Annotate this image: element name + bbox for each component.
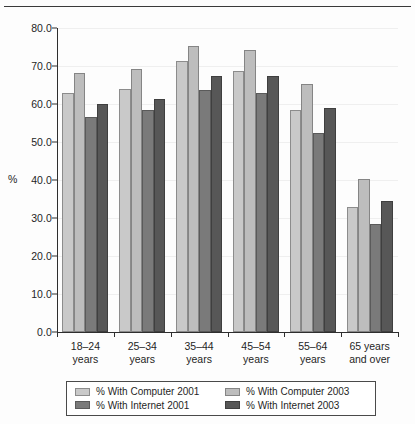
y-tick-label: 50.0 [31, 136, 52, 148]
bar-group [284, 28, 341, 332]
y-tick-label: 60.0 [31, 98, 52, 110]
x-tick-mark [341, 332, 342, 337]
legend-label: % With Computer 2003 [246, 386, 349, 397]
plot-area [57, 28, 398, 332]
bar [211, 76, 223, 332]
x-category-label-line: years [171, 353, 228, 366]
bar [131, 69, 143, 332]
bar [188, 46, 200, 332]
bar [256, 93, 268, 332]
x-tick-mark [284, 332, 285, 337]
x-category-label: 45–54years [228, 340, 285, 366]
x-category-label-line: 25–34 [114, 340, 171, 353]
bar [176, 61, 188, 332]
y-tick-label: 10.0 [31, 288, 52, 300]
x-category-label-line: years [57, 353, 114, 366]
x-category-label-line: and over [341, 353, 398, 366]
x-category-label-line: 45–54 [228, 340, 285, 353]
legend-item: % With Computer 2001 [75, 386, 225, 397]
x-tick-mark [228, 332, 229, 337]
x-tick-mark [171, 332, 172, 337]
x-category-label-line: 55–64 [284, 340, 341, 353]
bar [142, 110, 154, 332]
legend-label: % With Computer 2001 [96, 386, 199, 397]
y-tick-label: 30.0 [31, 212, 52, 224]
legend-swatch [75, 401, 90, 409]
legend-label: % With Internet 2001 [96, 400, 189, 411]
x-category-label: 65 yearsand over [341, 340, 398, 366]
bar [381, 201, 393, 332]
bar [358, 179, 370, 332]
x-tick-mark [398, 332, 399, 337]
top-divider-rule [4, 6, 411, 7]
y-tick-label: 0.0 [37, 326, 52, 338]
bar [347, 207, 359, 332]
bar [199, 90, 211, 332]
legend-swatch [75, 388, 90, 396]
bar [301, 84, 313, 332]
y-tick-label: 20.0 [31, 250, 52, 262]
x-category-label: 55–64years [284, 340, 341, 366]
legend-swatch [225, 401, 240, 409]
y-axis-ticks: 0.010.020.030.040.050.060.070.080.0 [0, 0, 52, 424]
chart-legend: % With Computer 2001% With Computer 2003… [66, 381, 376, 416]
bar [290, 110, 302, 332]
x-tick-mark [57, 332, 58, 337]
x-category-label-line: years [114, 353, 171, 366]
y-tick-label: 70.0 [31, 60, 52, 72]
bar [233, 71, 245, 332]
bar-group [228, 28, 285, 332]
bar-group [171, 28, 228, 332]
bar [119, 89, 131, 332]
x-category-label: 25–34years [114, 340, 171, 366]
legend-label: % With Internet 2003 [246, 400, 339, 411]
x-category-label-line: 35–44 [171, 340, 228, 353]
x-category-label-line: 65 years [341, 340, 398, 353]
x-category-label-line: years [284, 353, 341, 366]
legend-item: % With Internet 2001 [75, 400, 225, 411]
bar [154, 99, 166, 332]
x-category-label-line: years [228, 353, 285, 366]
bar-group [114, 28, 171, 332]
bar [313, 133, 325, 332]
bar [85, 117, 97, 332]
x-category-label: 18–24years [57, 340, 114, 366]
bar [244, 50, 256, 332]
y-tick-label: 40.0 [31, 174, 52, 186]
x-category-label-line: 18–24 [57, 340, 114, 353]
bar [324, 108, 336, 332]
bar [267, 76, 279, 332]
bar [74, 73, 86, 332]
chart-figure: % 0.010.020.030.040.050.060.070.080.0 18… [0, 0, 415, 424]
legend-item: % With Internet 2003 [225, 400, 375, 411]
bar-group [57, 28, 114, 332]
legend-item: % With Computer 2003 [225, 386, 375, 397]
bar-group [341, 28, 398, 332]
x-category-label: 35–44years [171, 340, 228, 366]
bar [370, 224, 382, 332]
x-tick-mark [114, 332, 115, 337]
y-tick-label: 80.0 [31, 22, 52, 34]
bar [97, 104, 109, 332]
legend-swatch [225, 388, 240, 396]
bar [62, 93, 74, 332]
